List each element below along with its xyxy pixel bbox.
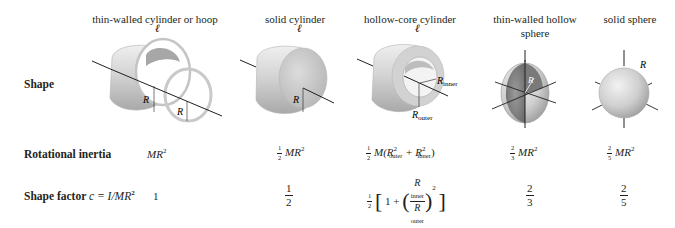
radius-label: R (292, 94, 299, 105)
denominator: 5 (607, 154, 612, 162)
shape-factor-solid-sphere: 25 (620, 183, 628, 208)
exponent: 2 (131, 189, 135, 197)
subscript-inner: inner (418, 152, 431, 159)
fraction-one-half: 12 (277, 145, 282, 161)
one-plus: 1 + (385, 195, 402, 207)
shape-factor-hoop: 1 (153, 190, 159, 202)
row-label-shape-factor: Shape factor c = I/MR2 (24, 189, 135, 202)
length-label: ℓ (415, 22, 420, 34)
numerator: 1 (285, 183, 293, 196)
left-paren: ( (402, 188, 409, 213)
numerator: 1 (277, 145, 282, 154)
denominator: 2 (367, 202, 372, 210)
numerator: 2 (526, 183, 534, 196)
exponent: 2 (631, 145, 635, 153)
rotation-axis (595, 82, 600, 84)
rotation-axis (240, 60, 256, 67)
exponent: 2 (301, 145, 305, 153)
fraction-one-half: 12 (367, 193, 372, 209)
denominator: 5 (620, 196, 628, 208)
shape-factor-solid-cylinder: 12 (285, 183, 293, 208)
inertia-expression: MR (518, 146, 534, 158)
numerator: 1 (367, 193, 372, 202)
fraction-one-half: 12 (285, 183, 293, 208)
hollow-sphere-illustration: R (492, 50, 556, 128)
shape-factor-formula: c = I/MR (89, 190, 131, 202)
shape-factor-hollow-sphere: 23 (526, 183, 534, 208)
radius-label: R (639, 59, 646, 70)
shape-factor-text: Shape factor (24, 190, 89, 202)
radius-label: R (176, 106, 183, 117)
close-paren: ) (431, 146, 435, 158)
right-bracket: ] (439, 188, 446, 213)
numerator: 2 (620, 183, 628, 196)
hollow-core-cylinder-illustration: ℓ Rinner Router (357, 22, 458, 122)
inertia-solid-cylinder: 12 MR2 (277, 145, 304, 161)
exponent: 2 (432, 184, 436, 192)
numerator: 1 (366, 145, 371, 154)
length-label: ℓ (155, 22, 160, 34)
denominator: 2 (277, 154, 282, 162)
shape-factor-hollow-core-cylinder: 12 [ 1 + (RinnerRouter)2 ] (367, 178, 446, 224)
radius-label: R (142, 94, 149, 105)
subscript-inner: inner (411, 192, 424, 199)
fraction-two-fifths: 25 (607, 145, 612, 161)
length-label: ℓ (297, 22, 302, 34)
inertia-hollow-sphere: 23 MR2 (510, 145, 537, 161)
solid-sphere-illustration: R (592, 50, 658, 128)
rotation-axis (646, 104, 658, 110)
inertia-expression: MR (615, 146, 631, 158)
exponent: 2 (163, 147, 167, 155)
subscript-outer: outer (389, 152, 402, 159)
denominator: 2 (285, 196, 293, 208)
inertia-solid-sphere: 25 MR2 (607, 145, 634, 161)
exponent: 2 (534, 145, 538, 153)
denominator: 3 (526, 196, 534, 208)
rotation-axis (592, 105, 602, 110)
rotation-axis (357, 59, 373, 66)
rotation-axis (92, 61, 108, 68)
rotation-axis (648, 83, 652, 85)
fraction-two-thirds: 23 (526, 183, 534, 208)
inertia-hoop: MR2 (147, 147, 166, 160)
hoop-illustration: ℓ R R (92, 22, 222, 121)
numerator: 2 (607, 145, 612, 154)
inertia-expression: MR (285, 146, 301, 158)
fraction-two-thirds: 23 (510, 145, 515, 161)
inertia-hollow-core-cylinder: 12 M(R2outer + R2inner) (366, 145, 435, 161)
denominator: R (410, 203, 425, 213)
subscript-outer: outer (411, 217, 424, 224)
row-label-rotational-inertia: Rotational inertia (24, 148, 111, 160)
solid-cylinder-illustration: ℓ R (240, 22, 334, 114)
shape-illustrations: ℓ R R ℓ R ℓ Rinner Router R (0, 0, 675, 140)
left-bracket: [ (375, 188, 382, 213)
fraction-one-half: 12 (366, 145, 371, 161)
outer-radius-label: Router (411, 109, 433, 122)
denominator: 2 (366, 154, 371, 162)
fraction-two-fifths: 25 (620, 183, 628, 208)
denominator: 3 (510, 154, 515, 162)
radius-ratio: RinnerRouter (410, 178, 425, 224)
inertia-expression: MR (147, 148, 163, 160)
radius-label: R (527, 75, 534, 85)
numerator: R (411, 178, 424, 188)
sphere-body (599, 68, 649, 118)
numerator: 2 (510, 145, 515, 154)
